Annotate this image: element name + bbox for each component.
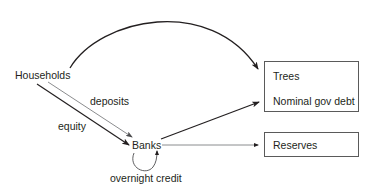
edge-label-equity: equity [58,120,86,132]
node-trees: Trees [273,70,299,82]
arrow-overnight-credit-loop [133,151,157,171]
reserves-box: Reserves [264,132,359,157]
arrow-households-to-assets [70,22,258,69]
node-nominal-gov-debt: Nominal gov debt [273,95,355,107]
edge-label-deposits: deposits [90,95,129,107]
arrow-equity [37,84,129,145]
flow-diagram: Households deposits equity Banks overnig… [0,0,374,195]
arrow-banks-to-assets [161,102,259,139]
node-banks: Banks [132,139,161,151]
node-households: Households [15,69,70,81]
assets-box: Trees Nominal gov debt [264,61,359,112]
edge-label-overnight-credit: overnight credit [110,172,182,184]
node-reserves: Reserves [273,139,317,151]
